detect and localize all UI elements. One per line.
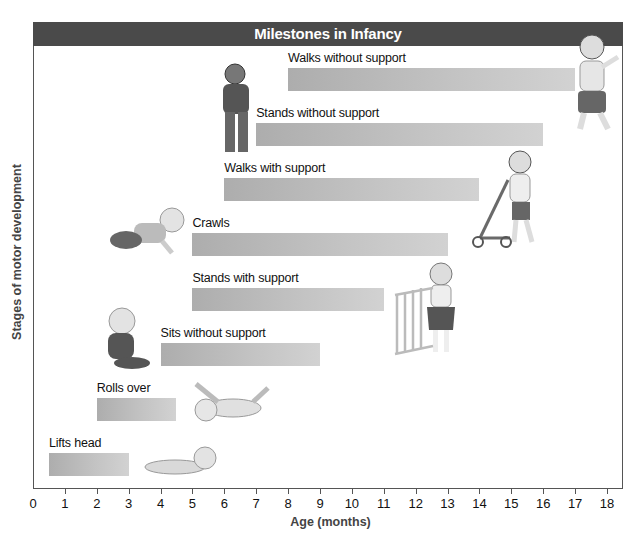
x-tick <box>288 489 289 494</box>
x-tick-label: 18 <box>597 496 617 511</box>
milestone-bar <box>192 288 383 311</box>
milestone-label: Rolls over <box>97 381 151 395</box>
x-tick-label: 0 <box>23 496 43 511</box>
x-tick-label: 8 <box>278 496 298 511</box>
x-tick-label: 12 <box>406 496 426 511</box>
x-tick-label: 5 <box>182 496 202 511</box>
chart-title: Milestones in Infancy <box>33 22 623 46</box>
x-tick <box>543 489 544 494</box>
x-tick <box>224 489 225 494</box>
x-tick <box>511 489 512 494</box>
x-tick-label: 9 <box>310 496 330 511</box>
x-tick <box>607 489 608 494</box>
x-tick-label: 15 <box>501 496 521 511</box>
milestone-label: Crawls <box>192 216 229 230</box>
x-tick <box>448 489 449 494</box>
x-tick-label: 1 <box>55 496 75 511</box>
x-tick-label: 16 <box>533 496 553 511</box>
x-tick <box>479 489 480 494</box>
x-tick-label: 11 <box>374 496 394 511</box>
x-tick <box>384 489 385 494</box>
x-tick-label: 10 <box>342 496 362 511</box>
baby-walking-icon <box>572 33 624 135</box>
milestone-bar <box>288 68 575 91</box>
x-tick <box>575 489 576 494</box>
milestone-label: Lifts head <box>49 436 101 450</box>
milestone-label: Sits without support <box>161 326 266 340</box>
milestone-label: Stands with support <box>192 271 298 285</box>
baby-walker-icon <box>470 150 545 250</box>
milestone-bar <box>97 398 177 421</box>
x-tick <box>416 489 417 494</box>
x-tick <box>129 489 130 494</box>
milestone-label: Walks without support <box>288 51 406 65</box>
x-tick-label: 4 <box>151 496 171 511</box>
baby-rolls-over-icon <box>188 380 273 430</box>
y-axis-label: Stages of motor development <box>10 157 24 347</box>
milestone-bar <box>224 178 479 201</box>
x-tick <box>161 489 162 494</box>
milestone-bar <box>161 343 320 366</box>
x-tick-label: 6 <box>214 496 234 511</box>
x-tick-label: 14 <box>469 496 489 511</box>
milestone-label: Stands without support <box>256 106 379 120</box>
milestone-label: Walks with support <box>224 161 325 175</box>
x-tick-label: 13 <box>438 496 458 511</box>
x-tick <box>192 489 193 494</box>
milestone-bar <box>256 123 543 146</box>
baby-sitting-icon <box>100 305 155 373</box>
milestone-bar <box>192 233 447 256</box>
x-tick <box>256 489 257 494</box>
x-tick <box>352 489 353 494</box>
x-axis-label: Age (months) <box>0 515 641 529</box>
milestone-bar <box>49 453 129 476</box>
x-tick-label: 2 <box>87 496 107 511</box>
x-tick-label: 17 <box>565 496 585 511</box>
baby-standing-icon <box>217 62 257 157</box>
x-tick-label: 3 <box>119 496 139 511</box>
baby-lifts-head-icon <box>135 442 220 477</box>
x-tick <box>65 489 66 494</box>
x-tick <box>320 489 321 494</box>
baby-crawling-icon <box>104 205 186 257</box>
x-tick <box>97 489 98 494</box>
x-tick-label: 7 <box>246 496 266 511</box>
baby-standing-with-rail-icon <box>393 262 458 357</box>
